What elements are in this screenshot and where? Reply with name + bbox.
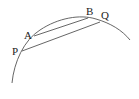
label-a: A bbox=[24, 29, 32, 41]
label-q: Q bbox=[101, 9, 109, 21]
chord-ab bbox=[34, 18, 88, 36]
label-b: B bbox=[86, 5, 93, 17]
circular-arc bbox=[12, 17, 130, 83]
chord-pq bbox=[22, 22, 100, 51]
label-p: P bbox=[12, 45, 18, 57]
arc-chord-diagram: A B P Q bbox=[0, 0, 139, 99]
